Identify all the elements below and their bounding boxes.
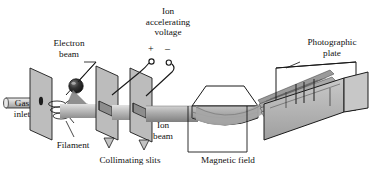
gas-inlet-line-1: Gas bbox=[4, 98, 40, 109]
ion-accel-line-2: accelerating bbox=[132, 17, 204, 28]
label-minus-sign: – bbox=[165, 43, 170, 54]
label-photographic-plate: Photographic plate bbox=[292, 37, 372, 58]
label-magnetic-field: Magnetic field bbox=[180, 155, 276, 165]
ion-beam-line-1: Ion bbox=[148, 120, 178, 131]
label-collimating-slits: Collimating slits bbox=[72, 155, 188, 165]
label-ion-accelerating-voltage: Ion accelerating voltage bbox=[132, 6, 204, 38]
label-gas-inlet: Gas inlet bbox=[4, 98, 40, 119]
collimating-slit-plate-1-icon bbox=[96, 66, 118, 140]
ion-beam-line-2: beam bbox=[148, 131, 178, 142]
ion-accel-line-1: Ion bbox=[132, 6, 204, 17]
photographic-plate-icon bbox=[264, 62, 368, 140]
diagram-canvas: Gas inlet Electron beam Filament Collima… bbox=[0, 0, 392, 181]
ion-beam-segment-1 bbox=[60, 104, 100, 118]
electron-beam-line-2: beam bbox=[38, 49, 100, 60]
filament-leader-line bbox=[66, 121, 74, 137]
electron-beam-line-1: Electron bbox=[38, 38, 100, 49]
gas-inlet-line-2: inlet bbox=[4, 109, 40, 120]
label-filament: Filament bbox=[42, 140, 104, 150]
ion-accel-line-3: voltage bbox=[132, 27, 204, 38]
label-plus-sign: + bbox=[148, 43, 154, 54]
label-electron-beam: Electron beam bbox=[38, 38, 100, 59]
label-ion-beam: Ion beam bbox=[148, 120, 178, 141]
slit-marker-1 bbox=[104, 138, 114, 148]
slit-marker-2 bbox=[139, 140, 149, 150]
photographic-plate-line-2: plate bbox=[292, 48, 372, 59]
photographic-plate-line-1: Photographic bbox=[292, 37, 372, 48]
